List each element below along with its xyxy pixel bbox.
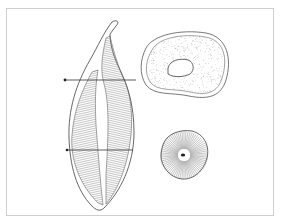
stipple-dot	[216, 83, 217, 84]
stipple-dot	[154, 49, 155, 50]
stipple-dot	[218, 47, 219, 48]
stipple-dot	[170, 91, 171, 92]
stipple-dot	[215, 34, 216, 35]
stipple-dot	[189, 95, 190, 96]
stipple-dot	[179, 40, 180, 41]
stipple-dot	[164, 42, 165, 43]
stipple-dot	[152, 69, 153, 70]
stipple-dot	[165, 90, 166, 91]
stipple-dot	[213, 36, 214, 37]
stipple-dot	[174, 45, 175, 46]
stipple-dot	[197, 94, 198, 95]
dentin-hatch-line	[100, 120, 136, 128]
stipple-dot	[201, 91, 202, 92]
stipple-dot	[165, 87, 166, 88]
stipple-dot	[225, 32, 226, 33]
stipple-dot	[163, 47, 164, 48]
stipple-dot	[193, 62, 194, 63]
stipple-dot	[214, 76, 215, 77]
stipple-dot	[149, 61, 150, 62]
stipple-dot	[226, 73, 227, 74]
dentin-hatch-line	[100, 206, 136, 214]
stipple-dot	[164, 63, 165, 64]
stipple-dot	[155, 48, 156, 49]
dentin-hatch-line	[68, 175, 104, 183]
stipple-dot	[183, 55, 184, 56]
stipple-dot	[154, 78, 155, 79]
dentin-hatch-line	[68, 186, 104, 194]
stipple-dot	[181, 87, 182, 88]
stipple-dot	[204, 90, 205, 91]
stipple-dot	[224, 52, 225, 53]
stipple-dot	[211, 76, 212, 77]
stipple-dot	[222, 87, 223, 88]
stipple-dot	[210, 40, 211, 41]
stipple-dot	[148, 55, 149, 56]
stipple-dot	[148, 54, 149, 55]
stipple-dot	[156, 69, 157, 70]
stipple-dot	[167, 65, 168, 66]
stipple-dot	[198, 57, 199, 58]
stipple-dot	[227, 34, 228, 35]
stipple-dot	[182, 94, 183, 95]
stipple-dot	[193, 40, 194, 41]
stipple-dot	[177, 88, 178, 89]
stipple-dot	[212, 83, 213, 84]
stipple-dot	[170, 62, 171, 63]
stipple-dot	[165, 68, 166, 69]
stipple-dot	[213, 70, 214, 71]
stipple-dot	[209, 81, 210, 82]
stipple-dot	[182, 46, 183, 47]
stipple-dot	[185, 77, 186, 78]
stipple-dot	[225, 53, 226, 54]
stipple-dot	[166, 33, 167, 34]
stipple-dot	[183, 92, 184, 93]
stipple-dot	[224, 71, 225, 72]
stipple-dot	[201, 79, 202, 80]
stipple-dot	[171, 42, 172, 43]
stipple-dot	[213, 79, 214, 80]
stipple-dot	[155, 84, 156, 85]
stipple-dot	[218, 61, 219, 62]
stipple-dot	[219, 49, 220, 50]
stipple-dot	[158, 32, 159, 33]
stipple-dot	[180, 56, 181, 57]
stipple-dot	[144, 80, 145, 81]
dentin-hatch-line	[100, 147, 136, 155]
stipple-dot	[214, 79, 215, 80]
radial-line	[155, 147, 178, 153]
stipple-dot	[197, 57, 198, 58]
stipple-dot	[206, 43, 207, 44]
stipple-dot	[193, 36, 194, 37]
stipple-dot	[223, 41, 224, 42]
tooth-diagram	[0, 0, 283, 224]
stipple-dot	[214, 95, 215, 96]
stipple-dot	[195, 59, 196, 60]
dentin-hatch-line	[68, 177, 104, 185]
stipple-dot	[150, 46, 151, 47]
stipple-dot	[153, 36, 154, 37]
stipple-dot	[167, 91, 168, 92]
stipple-dot	[199, 42, 200, 43]
stipple-dot	[197, 47, 198, 48]
dentin-hatch-line	[68, 183, 104, 191]
stipple-dot	[160, 82, 161, 83]
stipple-dot	[164, 58, 165, 59]
dentin-hatch-line	[100, 70, 136, 78]
stipple-dot	[169, 92, 170, 93]
stipple-dot	[210, 90, 211, 91]
dentin-hatch-line	[100, 193, 136, 201]
stipple-dot	[146, 78, 147, 79]
stipple-dot	[222, 93, 223, 94]
stipple-dot	[208, 74, 209, 75]
stipple-dot	[221, 93, 222, 94]
radial-line	[186, 161, 192, 184]
dentin-hatch-line	[100, 169, 136, 177]
stipple-dot	[189, 85, 190, 86]
stipple-dot	[179, 46, 180, 47]
dentin-hatch-line	[100, 125, 136, 133]
dentin-hatch-line	[68, 179, 104, 187]
stipple-dot	[190, 83, 191, 84]
radial-line	[190, 147, 213, 153]
dentin-hatch-line	[100, 173, 136, 181]
